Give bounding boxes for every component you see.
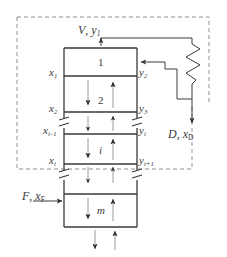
vapor-composition-y2: y2 bbox=[139, 67, 147, 80]
liquid-composition-x1: x1 bbox=[49, 67, 57, 80]
stage-label-i: i bbox=[99, 145, 102, 156]
column-body bbox=[64, 48, 137, 227]
liquid-composition-xi-1: xi–1 bbox=[43, 125, 57, 138]
distillate-label: D, xD bbox=[168, 128, 193, 141]
stage-label-m: m bbox=[97, 205, 105, 216]
stage-label-1: 1 bbox=[98, 57, 104, 68]
condenser-and-reflux-piping bbox=[101, 38, 200, 99]
overhead-vapor-label: V, y1 bbox=[78, 24, 100, 37]
stage-label-2: 2 bbox=[98, 95, 104, 106]
vapor-composition-yi1: yi+1 bbox=[139, 155, 154, 168]
vapor-composition-y3: y3 bbox=[139, 103, 147, 116]
feed-label: F, xF bbox=[22, 190, 45, 203]
distillation-column-diagram: V, y1 D, xD F, xF x1 x2 xi–1 xi y2 y3 yi… bbox=[0, 0, 227, 257]
liquid-composition-x2: x2 bbox=[49, 103, 57, 116]
vapor-composition-yi: yi bbox=[139, 125, 146, 138]
liquid-composition-xi: xi bbox=[49, 155, 56, 168]
